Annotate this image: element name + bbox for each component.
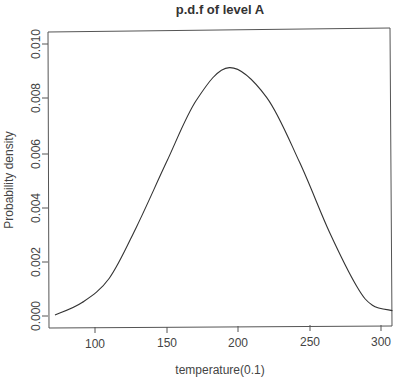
y-tick-label: 0.008 <box>29 83 43 113</box>
y-tick-label: 0.000 <box>29 301 43 331</box>
y-tick-label: 0.004 <box>29 193 43 223</box>
x-tick-label: 300 <box>371 335 391 349</box>
y-tick-label: 0.006 <box>29 139 43 169</box>
x-tick-labels: 100 150 200 250 300 <box>85 335 391 351</box>
chart-canvas: 0.000 0.002 0.004 0.006 0.008 0.010 100 … <box>0 0 396 382</box>
y-tick-label: 0.010 <box>29 29 43 59</box>
x-tick-label: 150 <box>157 336 177 350</box>
y-tick-label: 0.002 <box>29 247 43 277</box>
plot-frame <box>48 28 392 328</box>
x-tick-label: 100 <box>85 337 105 351</box>
y-tick-labels: 0.000 0.002 0.004 0.006 0.008 0.010 <box>29 29 43 331</box>
density-curve <box>55 68 392 315</box>
y-axis-label: Probability density <box>2 131 16 228</box>
x-tick-label: 200 <box>228 336 248 350</box>
x-axis-label: temperature(0.1) <box>175 363 264 377</box>
x-tick-label: 250 <box>300 335 320 349</box>
